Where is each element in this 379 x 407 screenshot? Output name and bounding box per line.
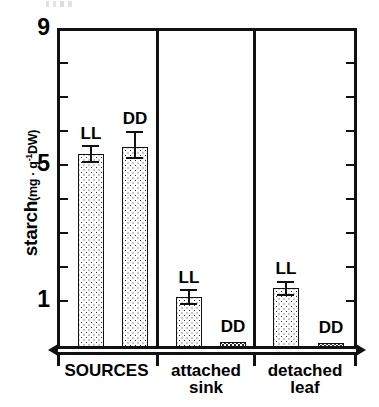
errorbar-sources-ll: [90, 146, 92, 162]
bar-sources-dd: [122, 147, 148, 348]
y-tick-right-7: [346, 96, 354, 98]
errorcap-attached-sink-ll-bottom: [180, 303, 197, 305]
panel-label-detached-leaf: detachedleaf: [256, 362, 354, 397]
starch-bar-chart: starch(mg · g-1DW) 9 5 1: [0, 0, 379, 407]
y-tick-4: [60, 198, 68, 200]
y-tick-9: [60, 28, 68, 30]
y-tick-1: [60, 300, 68, 302]
y-tick-8: [60, 62, 68, 64]
y-axis-label-text: starch: [20, 201, 41, 256]
y-tick-2: [60, 266, 68, 268]
y-tick-label-9: 9: [26, 16, 50, 39]
errorcap-detached-leaf-ll-top: [277, 281, 294, 283]
y-tick-right-4: [346, 198, 354, 200]
errorcap-sources-ll-top: [82, 145, 99, 147]
series-label-detached-leaf-dd: DD: [311, 319, 351, 336]
scan-artifact: [46, 1, 72, 7]
errorcap-attached-sink-ll-top: [180, 289, 197, 291]
y-tick-right-1: [346, 300, 354, 302]
errorcap-sources-dd-bottom: [126, 157, 143, 159]
y-axis-label: starch(mg · g-1DW): [20, 88, 42, 298]
series-label-attached-sink-dd: DD: [213, 318, 253, 335]
axis-break-baseline: [48, 344, 366, 356]
y-tick-7: [60, 96, 68, 98]
y-tick-6: [60, 130, 68, 132]
errorbar-sources-dd: [134, 132, 136, 158]
panel-divider-1: [156, 28, 159, 348]
series-label-detached-leaf-ll: LL: [266, 260, 306, 277]
y-tick-label-1: 1: [26, 288, 50, 311]
errorbar-attached-sink-ll: [188, 290, 190, 304]
errorcap-sources-dd-top: [126, 131, 143, 133]
errorcap-detached-leaf-ll-bottom: [277, 294, 294, 296]
panel-label-detached-leaf-line2: leaf: [290, 378, 319, 397]
plot-area: LL DD LL DD LL DD: [57, 28, 357, 348]
panel-label-sources: SOURCES: [57, 362, 156, 379]
axis-top: [57, 28, 357, 31]
bar-sources-ll: [78, 154, 104, 348]
bar-detached-leaf-ll: [273, 288, 299, 348]
y-tick-3: [60, 232, 68, 234]
series-label-attached-sink-ll: LL: [169, 269, 209, 286]
axis-break-arrow-right: [356, 344, 366, 356]
baseline-line-upper: [56, 346, 358, 349]
y-tick-5: [60, 164, 68, 166]
panel-label-detached-leaf-line1: detached: [268, 361, 343, 380]
baseline-line-lower: [56, 352, 358, 355]
y-tick-right-2: [346, 266, 354, 268]
panel-label-attached-sink-line1: attached: [171, 361, 241, 380]
y-tick-right-6: [346, 130, 354, 132]
axis-right: [354, 28, 357, 348]
series-label-sources-ll: LL: [71, 125, 111, 142]
y-tick-right-3: [346, 232, 354, 234]
errorcap-sources-ll-bottom: [82, 161, 99, 163]
y-tick-label-5: 5: [26, 152, 50, 175]
series-label-sources-dd: DD: [115, 110, 155, 127]
x-tick-right-edge: [354, 352, 357, 366]
panel-label-attached-sink-line2: sink: [189, 378, 223, 397]
y-tick-right-5: [346, 164, 354, 166]
panel-label-attached-sink: attachedsink: [159, 362, 253, 397]
panel-divider-2: [253, 28, 256, 348]
y-axis-unit-prefix: (mg: [26, 179, 40, 201]
y-tick-right-8: [346, 62, 354, 64]
